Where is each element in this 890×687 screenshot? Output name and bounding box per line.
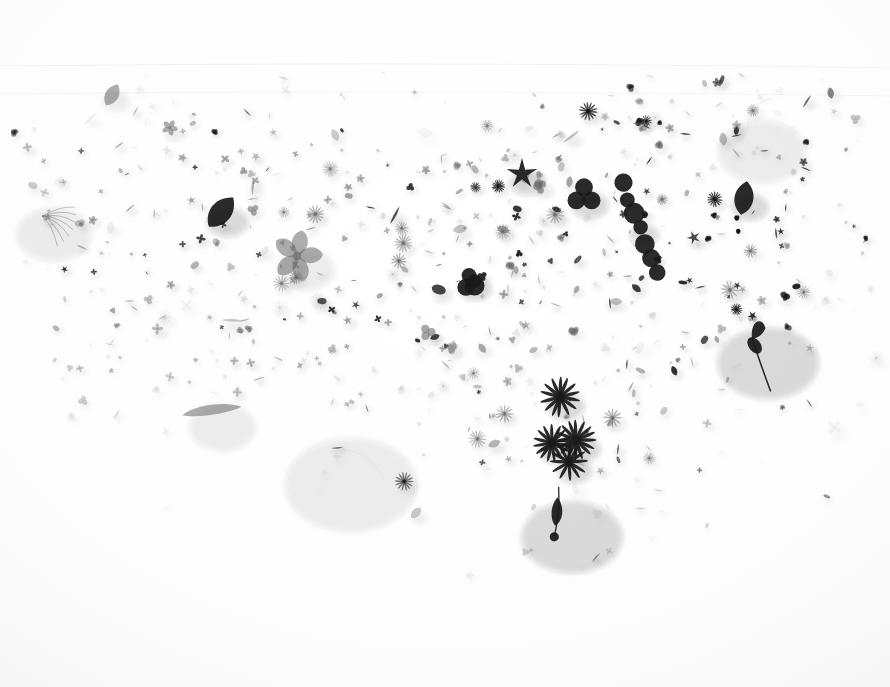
landmark-shadow <box>718 327 819 399</box>
specimen-shadow <box>558 272 566 278</box>
specimen-shadow <box>245 112 253 118</box>
landmark-shadow <box>285 438 417 532</box>
specimen-shadow <box>488 331 495 336</box>
specimen-shadow <box>152 213 160 219</box>
specimen-shadow <box>740 75 746 80</box>
botanical-scatter-artwork <box>0 0 890 687</box>
specimen-shadow <box>488 259 495 264</box>
photograph-canvas <box>0 0 890 687</box>
specimen-shadow <box>537 279 545 285</box>
specimen-shadow <box>616 449 625 456</box>
specimen-shadow <box>485 469 494 475</box>
specimen-shadow <box>200 207 207 212</box>
specimen-shadow <box>438 265 443 269</box>
specimen-shadow <box>343 97 348 101</box>
specimen-shadow <box>132 148 137 152</box>
landmark-shadow <box>522 501 623 573</box>
specimen-shadow <box>89 345 93 348</box>
specimen-shadow <box>608 239 617 245</box>
specimen-shadow <box>625 364 633 370</box>
specimen-shadow <box>443 364 453 371</box>
specimen-shadow <box>737 409 745 415</box>
specimen-shadow <box>365 408 372 413</box>
specimen-shadow <box>127 301 135 307</box>
landmark-shadow <box>718 121 806 183</box>
specimen-shadow <box>690 362 698 368</box>
specimen-shadow <box>838 299 845 304</box>
specimen-shadow <box>647 76 654 81</box>
specimen-shadow <box>250 227 254 230</box>
specimen-shadow <box>440 159 448 165</box>
specimen-shadow <box>249 186 263 196</box>
specimen-shadow <box>814 306 820 311</box>
